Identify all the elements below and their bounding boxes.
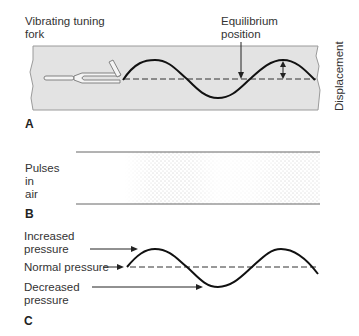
panel-c-letter: C [24, 314, 33, 328]
panel-b-air-pulses [76, 152, 320, 204]
increased-pressure-label: Increased pressure [24, 230, 75, 256]
increased-pressure-arrow [90, 246, 138, 252]
decreased-pressure-arrow [92, 284, 203, 290]
decreased-pressure-label: Decreased pressure [24, 281, 80, 307]
equilibrium-position-label: Equilibrium position [221, 15, 278, 41]
panel-a-letter: A [25, 117, 34, 131]
pressure-wave [127, 249, 318, 287]
tuning-fork-label: Vibrating tuning fork [25, 15, 105, 41]
displacement-label: Displacement [333, 41, 345, 111]
normal-pressure-label: Normal pressure [24, 261, 109, 274]
pulses-in-air-label: Pulses in air [25, 162, 60, 201]
panel-b-letter: B [25, 207, 34, 221]
